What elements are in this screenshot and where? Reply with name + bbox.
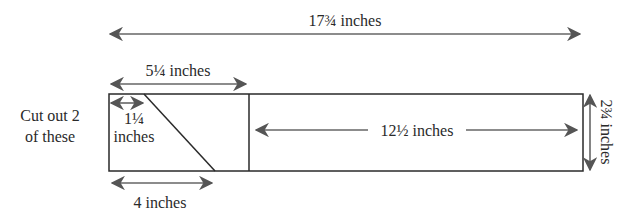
left-section-dimension: 5¼ inches [111,62,246,84]
height-dimension: 2¾ inches [590,95,615,170]
side-note-line2: of these [25,128,75,145]
left-section-label: 5¼ inches [146,62,211,79]
side-note-line1: Cut out 2 [20,107,80,124]
diagonal-cut-line [144,94,215,171]
height-label: 2¾ inches [598,100,615,165]
pattern-diagram: 17¾ inches 5¼ inches Cut out 2 of these … [0,0,622,223]
bottom-offset-label: 4 inches [134,194,187,211]
top-offset-value: 1¼ [124,110,144,127]
bottom-offset-dimension: 4 inches [112,183,212,211]
total-length-label: 17¾ inches [309,12,382,29]
right-section-label: 12½ inches [381,122,454,139]
right-section-dimension: 12½ inches [256,122,577,139]
top-offset-dimension: 1¼ inches [111,103,154,145]
total-length-dimension: 17¾ inches [110,12,580,34]
top-offset-unit: inches [114,128,155,145]
